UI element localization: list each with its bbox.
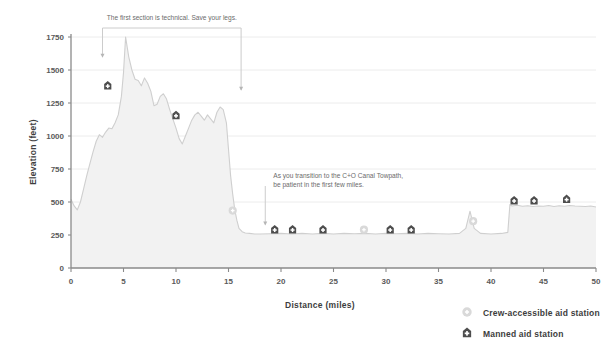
x-tick-label: 15 [224, 277, 233, 286]
cross-horizontal [273, 229, 277, 231]
y-axis-ticks: 02505007501000125015001750 [46, 33, 71, 273]
marker-manned-aid-station[interactable] [408, 225, 415, 233]
y-tick-label: 1000 [46, 132, 64, 141]
cross-horizontal [532, 200, 536, 202]
marker-manned-aid-station[interactable] [104, 81, 111, 89]
y-tick-label: 0 [60, 264, 65, 273]
legend-item[interactable]: Crew-accessible aid station [462, 307, 600, 317]
marker-manned-aid-station[interactable] [319, 225, 326, 233]
elevation-area [71, 37, 596, 268]
x-tick-label: 45 [539, 277, 548, 286]
cross-horizontal [565, 199, 569, 201]
cross-horizontal [291, 229, 295, 231]
cross-horizontal [231, 210, 235, 211]
marker-crew-aid-station[interactable] [360, 226, 368, 234]
x-tick-label: 30 [382, 277, 391, 286]
marker-manned-aid-station[interactable] [271, 225, 278, 233]
elevation-profile-svg: 02505007501000125015001750 0510152025303… [0, 0, 611, 350]
annotation-arrowhead [239, 87, 243, 91]
x-axis-ticks: 05101520253035404550 [69, 268, 601, 286]
x-tick-label: 40 [487, 277, 496, 286]
cross-horizontal [409, 229, 413, 231]
elevation-chart: 02505007501000125015001750 0510152025303… [0, 0, 611, 350]
x-tick-label: 50 [592, 277, 601, 286]
legend: Crew-accessible aid stationManned aid st… [462, 307, 600, 338]
cross-horizontal [465, 332, 470, 334]
y-tick-label: 1500 [46, 66, 64, 75]
x-tick-label: 25 [329, 277, 338, 286]
x-tick-label: 10 [172, 277, 181, 286]
x-tick-label: 0 [69, 277, 74, 286]
legend-label: Manned aid station [483, 329, 564, 339]
annotation-arrowhead [101, 54, 105, 58]
marker-crew-aid-station[interactable] [229, 206, 237, 214]
marker-manned-aid-station[interactable] [289, 225, 296, 233]
x-tick-label: 35 [434, 277, 443, 286]
annotation-text-technical: The first section is technical. Save you… [107, 14, 237, 22]
cross-horizontal [465, 311, 469, 312]
elevation-area-fill [71, 37, 596, 268]
y-tick-label: 1750 [46, 33, 64, 42]
marker-crew-aid-station[interactable] [469, 217, 477, 225]
x-axis-title: Distance (miles) [285, 300, 355, 310]
y-tick-label: 500 [51, 198, 65, 207]
marker-manned-aid-station[interactable] [511, 196, 518, 204]
cross-horizontal [388, 229, 392, 231]
marker-manned-aid-station[interactable] [563, 195, 570, 203]
y-tick-label: 250 [51, 231, 65, 240]
legend-label: Crew-accessible aid station [483, 308, 600, 318]
annotation-text-towpath: As you transition to the C+O Canal Towpa… [273, 172, 403, 189]
marker-manned-aid-station[interactable] [530, 196, 537, 204]
legend-item[interactable]: Manned aid station [463, 328, 564, 339]
cross-horizontal [512, 200, 516, 202]
annotation-arrowhead [263, 221, 267, 225]
cross-horizontal [174, 115, 178, 117]
cross-horizontal [362, 229, 366, 230]
x-tick-label: 20 [277, 277, 286, 286]
cross-horizontal [471, 220, 475, 221]
cross-horizontal [106, 85, 110, 87]
y-axis-title: Elevation (feet) [28, 119, 38, 185]
x-tick-label: 5 [121, 277, 126, 286]
marker-manned-aid-station[interactable] [387, 225, 394, 233]
marker-manned-aid-station[interactable] [172, 111, 179, 119]
cross-horizontal [321, 229, 325, 231]
y-tick-label: 1250 [46, 99, 64, 108]
y-tick-label: 750 [51, 165, 65, 174]
